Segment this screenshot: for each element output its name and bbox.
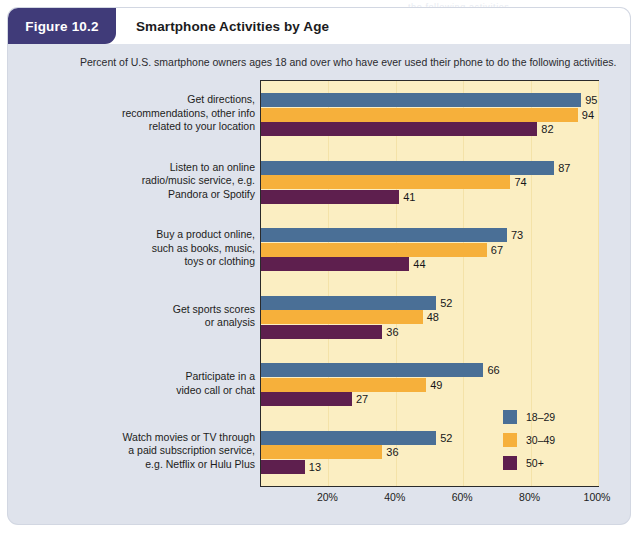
gridline-40% <box>396 81 397 486</box>
legend-swatch-icon <box>503 433 517 447</box>
bar <box>261 378 426 392</box>
bar <box>261 190 399 204</box>
x-tick-label: 100% <box>572 491 622 503</box>
category-label: Listen to an onlineradio/music service, … <box>8 161 255 202</box>
bar <box>261 445 382 459</box>
bar <box>261 460 305 474</box>
bar <box>261 431 436 445</box>
bar <box>261 363 483 377</box>
legend-item: 30–49 <box>503 433 555 447</box>
bar <box>261 392 352 406</box>
category-label: Get sports scoresor analysis <box>8 303 255 330</box>
x-tick-label: 40% <box>370 491 420 503</box>
bar <box>261 325 382 339</box>
legend-item: 50+ <box>503 456 544 470</box>
bar-value-label: 36 <box>386 325 398 339</box>
legend-label: 50+ <box>526 457 544 469</box>
figure-title: Smartphone Activities by Age <box>136 8 329 44</box>
bar-value-label: 95 <box>585 93 597 107</box>
bar-value-label: 87 <box>558 161 570 175</box>
figure-subtitle: Percent of U.S. smartphone owners ages 1… <box>80 56 616 68</box>
bar-value-label: 82 <box>541 122 553 136</box>
bar <box>261 257 409 271</box>
bar-value-label: 44 <box>413 257 425 271</box>
gridline-80% <box>531 81 532 486</box>
bar <box>261 93 581 107</box>
x-tick-label: 80% <box>505 491 555 503</box>
category-label: Buy a product online,such as books, musi… <box>8 228 255 269</box>
gridline-60% <box>463 81 464 486</box>
figure-number-badge: Figure 10.2 <box>8 8 116 44</box>
bar-value-label: 52 <box>440 296 452 310</box>
bar-value-label: 66 <box>487 363 499 377</box>
bar <box>261 161 554 175</box>
figure-panel: Figure 10.2 Smartphone Activities by Age… <box>8 8 630 524</box>
bar <box>261 296 436 310</box>
bar-value-label: 41 <box>403 190 415 204</box>
bar-value-label: 36 <box>386 445 398 459</box>
gridline-100% <box>598 81 599 486</box>
bar-value-label: 74 <box>514 175 526 189</box>
legend-swatch-icon <box>503 410 517 424</box>
figure-header: Figure 10.2 Smartphone Activities by Age <box>8 8 630 44</box>
x-tick-label: 20% <box>302 491 352 503</box>
bar <box>261 175 510 189</box>
bar-value-label: 52 <box>440 431 452 445</box>
bar-value-label: 48 <box>427 310 439 324</box>
bar-value-label: 13 <box>309 460 321 474</box>
legend-swatch-icon <box>503 456 517 470</box>
bar-value-label: 73 <box>511 228 523 242</box>
bar <box>261 228 507 242</box>
legend-label: 18–29 <box>526 411 555 423</box>
gridline-20% <box>328 81 329 486</box>
bar-value-label: 67 <box>491 243 503 257</box>
x-tick-label: 60% <box>437 491 487 503</box>
bar-value-label: 94 <box>582 108 594 122</box>
category-label: Get directions,recommendations, other in… <box>8 93 255 134</box>
chart-plot-area: 959482877441736744524836664927523613 <box>260 80 599 487</box>
legend-item: 18–29 <box>503 410 555 424</box>
bar <box>261 243 487 257</box>
category-label: Watch movies or TV througha paid subscri… <box>8 431 255 472</box>
category-label: Participate in avideo call or chat <box>8 370 255 397</box>
legend-label: 30–49 <box>526 434 555 446</box>
bar-value-label: 49 <box>430 378 442 392</box>
bar <box>261 108 578 122</box>
bar <box>261 310 423 324</box>
bar-value-label: 27 <box>356 392 368 406</box>
bar <box>261 122 537 136</box>
